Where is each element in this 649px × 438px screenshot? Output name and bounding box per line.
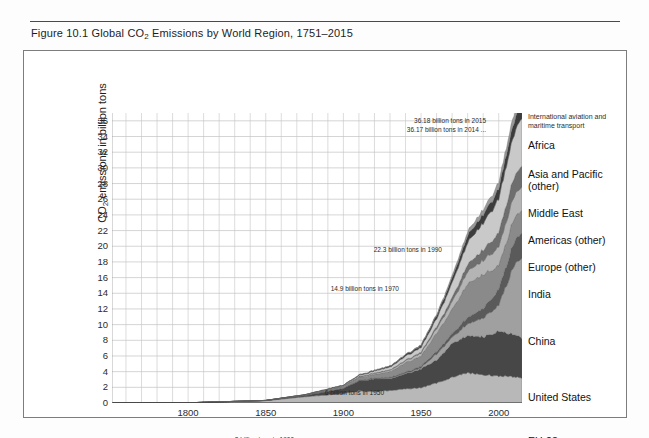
y-tick-label: 10: [86, 320, 108, 329]
y-tick-label: 22: [86, 226, 108, 235]
x-tick-label: 1950: [410, 407, 431, 418]
legend-item-united-states: United States: [528, 391, 591, 403]
chart-annotation: 22.3 billion tons in 1990: [374, 246, 442, 254]
figure-frame: CO2 emissions in billion tons 0246810121…: [23, 50, 627, 418]
figure-title: Figure 10.1 Global CO2 Emissions by Worl…: [31, 27, 353, 39]
y-tick-label: 0: [86, 398, 108, 407]
y-tick-label: 36: [86, 116, 108, 125]
figure-title-subscript: 2: [144, 32, 149, 41]
y-tick-label: 16: [86, 273, 108, 282]
y-tick-label: 28: [86, 179, 108, 188]
chart-legend: International aviation and maritime tran…: [528, 107, 649, 407]
x-tick-label: 1800: [178, 407, 199, 418]
y-tick-label: 14: [86, 288, 108, 297]
legend-item-americas-other: Americas (other): [528, 234, 606, 246]
y-tick-label: 12: [86, 304, 108, 313]
chart-annotation: 6 billion tons in 1950: [325, 389, 384, 397]
legend-item-middle-east: Middle East: [528, 207, 583, 219]
y-tick-label: 2: [86, 382, 108, 391]
x-tick-label: 2000: [488, 407, 509, 418]
plot-area: 36.18 billion tons in 201536.17 billion …: [112, 113, 522, 403]
legend-item-europe-other: Europe (other): [528, 261, 596, 273]
y-tick-label: 24: [86, 210, 108, 219]
chart-annotation: 36.18 billion tons in 2015: [414, 117, 486, 125]
stacked-area-chart: [112, 113, 522, 403]
y-tick-label: 20: [86, 241, 108, 250]
y-tick-label: 8: [86, 335, 108, 344]
chart-annotation: 14.9 billion tons in 1970: [331, 285, 399, 293]
figure-page: Figure 10.1 Global CO2 Emissions by Worl…: [0, 0, 649, 438]
y-tick-label: 18: [86, 257, 108, 266]
x-tick-label: 1900: [333, 407, 354, 418]
y-tick-label: 32: [86, 147, 108, 156]
y-tick-labels: 024681012141618202224262830323436: [84, 113, 108, 403]
legend-item-international-aviation-and-maritime-transport: International aviation and maritime tran…: [528, 113, 606, 130]
legend-item-china: China: [528, 335, 555, 347]
y-tick-label: 34: [86, 132, 108, 141]
x-tick-label: 1850: [255, 407, 276, 418]
legend-item-india: India: [528, 288, 551, 300]
legend-item-africa: Africa: [528, 139, 555, 151]
x-tick-labels: 18001850190019502000: [112, 407, 522, 423]
y-tick-label: 4: [86, 367, 108, 376]
figure-title-pre: Figure 10.1 Global CO: [31, 27, 144, 39]
legend-item-asia-and-pacific-other: Asia and Pacific (other): [528, 168, 603, 192]
y-tick-label: 6: [86, 351, 108, 360]
title-rule: [30, 21, 620, 22]
y-tick-label: 30: [86, 163, 108, 172]
y-tick-label: 26: [86, 194, 108, 203]
chart-annotation: 36.17 billion tons in 2014 ...: [407, 126, 486, 134]
figure-title-post: Emissions by World Region, 1751–2015: [149, 27, 353, 39]
